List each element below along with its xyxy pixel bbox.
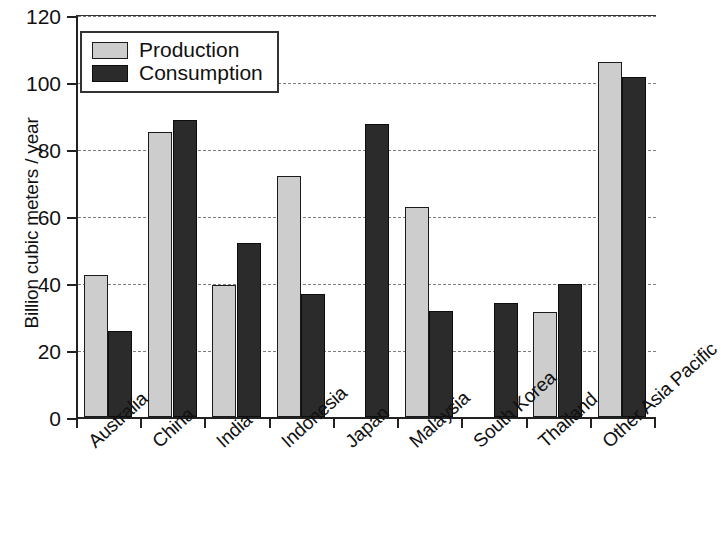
legend-item-production: Production (92, 39, 263, 61)
bar-consumption (494, 303, 518, 417)
chart-legend: Production Consumption (80, 31, 279, 93)
bar-consumption (429, 311, 453, 417)
x-axis-tick (461, 417, 463, 428)
bar-production (212, 285, 236, 417)
bar-consumption (622, 77, 646, 417)
x-axis-tick (76, 417, 78, 428)
x-axis-tick (204, 417, 206, 428)
bar-production (533, 312, 557, 417)
bar-consumption (237, 243, 261, 417)
legend-swatch-consumption-icon (92, 65, 128, 82)
bar-consumption (301, 294, 325, 417)
bar-consumption (365, 124, 389, 417)
legend-label-consumption: Consumption (139, 62, 263, 84)
y-axis-tick-label: 0 (49, 407, 61, 431)
legend-swatch-production-icon (92, 42, 128, 59)
y-axis-tick-label: 40 (38, 273, 61, 297)
x-axis-tick (590, 417, 592, 428)
bar-consumption (558, 284, 582, 417)
y-axis-tick-label: 80 (38, 139, 61, 163)
bar-production (598, 62, 622, 417)
x-axis-tick (397, 417, 399, 428)
legend-label-production: Production (139, 39, 239, 61)
y-axis-tick-label: 120 (26, 5, 61, 29)
x-axis-tick (654, 417, 656, 428)
bar-production (405, 207, 429, 417)
bar-production (84, 275, 108, 417)
bar-consumption (173, 120, 197, 417)
y-axis-tick-label: 60 (38, 206, 61, 230)
x-axis-tick (333, 417, 335, 428)
x-axis-tick (140, 417, 142, 428)
legend-item-consumption: Consumption (92, 62, 263, 84)
bar-consumption (108, 331, 132, 417)
x-axis-tick (269, 417, 271, 428)
bar-production (277, 176, 301, 417)
bar-production (148, 132, 172, 417)
x-axis-tick (526, 417, 528, 428)
y-axis-tick-label: 100 (26, 72, 61, 96)
y-axis-tick-label: 20 (38, 340, 61, 364)
x-axis-ticks (76, 417, 656, 431)
